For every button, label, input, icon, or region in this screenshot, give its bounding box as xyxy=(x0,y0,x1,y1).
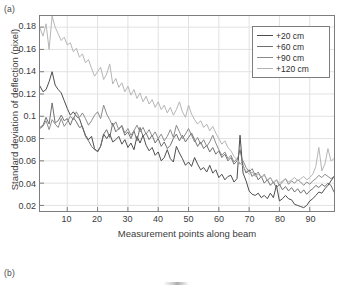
x-axis-tick-labels: 102030405060708090 xyxy=(39,213,335,229)
panel-b-partial-mark xyxy=(163,282,189,285)
legend-item[interactable]: +60 cm xyxy=(253,41,329,52)
x-tick-label: 70 xyxy=(245,214,255,224)
y-tick-label: 0.18 xyxy=(18,21,36,31)
legend-label: +90 cm xyxy=(276,53,304,63)
x-axis-title: Measurement points along beam xyxy=(39,228,335,239)
x-tick-label: 30 xyxy=(122,214,132,224)
y-tick-label: 0.06 xyxy=(18,156,36,166)
x-tick-label: 50 xyxy=(184,214,194,224)
y-tick-label: 0.02 xyxy=(18,201,36,211)
y-tick-label: 0.14 xyxy=(18,66,36,76)
y-axis-tick-labels: 0.020.040.060.080.10.120.140.160.18 xyxy=(0,15,36,212)
legend-label: +60 cm xyxy=(276,42,304,52)
x-tick-label: 40 xyxy=(153,214,163,224)
x-tick-label: 10 xyxy=(61,214,71,224)
y-tick-label: 0.16 xyxy=(18,44,36,54)
x-tick-label: 80 xyxy=(275,214,285,224)
x-tick-label: 90 xyxy=(306,214,316,224)
legend-line-swatch xyxy=(257,68,273,69)
legend-line-swatch xyxy=(257,46,273,47)
y-tick-label: 0.08 xyxy=(18,134,36,144)
legend-item[interactable]: +90 cm xyxy=(253,52,329,63)
y-tick-label: 0.12 xyxy=(18,89,36,99)
x-tick-label: 20 xyxy=(92,214,102,224)
legend-item[interactable]: +20 cm xyxy=(253,30,329,41)
y-tick-label: 0.04 xyxy=(18,179,36,189)
x-tick-label: 60 xyxy=(214,214,224,224)
chart-panel-b-partial xyxy=(0,276,337,293)
chart-legend: +20 cm+60 cm+90 cm+120 cm xyxy=(252,26,330,78)
y-tick-label: 0.1 xyxy=(23,111,36,121)
figure-page: (a) Standard deviation of deflection (pi… xyxy=(0,0,337,293)
legend-label: +120 cm xyxy=(276,64,309,74)
legend-line-swatch xyxy=(257,57,273,58)
legend-label: +20 cm xyxy=(276,31,304,41)
legend-item[interactable]: +120 cm xyxy=(253,63,329,74)
chart-panel-a: Standard deviation of deflection (pixel)… xyxy=(0,12,337,250)
legend-line-swatch xyxy=(257,35,273,36)
